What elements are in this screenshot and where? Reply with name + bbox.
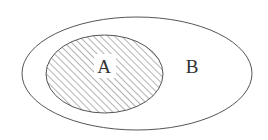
- venn-diagram-svg: A B: [0, 0, 268, 140]
- set-b-label: B: [186, 56, 199, 77]
- venn-diagram: A B: [0, 0, 268, 140]
- set-a-label: A: [97, 56, 111, 77]
